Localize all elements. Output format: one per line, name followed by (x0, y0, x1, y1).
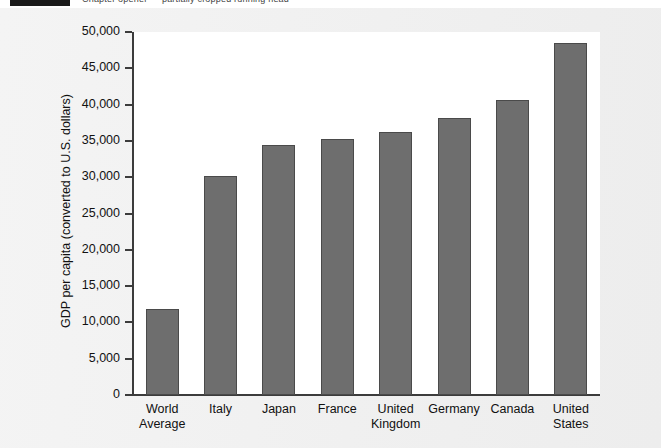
x-axis-category-label: United States (542, 402, 600, 432)
y-axis-tick-mark (125, 249, 132, 251)
bar (379, 132, 412, 395)
y-axis-tick-label: 10,000 (82, 314, 120, 328)
x-axis-category-label: Japan (250, 402, 308, 417)
x-axis-category-label: France (308, 402, 366, 417)
x-axis-category-label: Germany (425, 402, 483, 417)
y-axis-tick-mark (125, 358, 132, 360)
y-axis-tick-mark (125, 394, 132, 396)
bar (554, 43, 587, 395)
header-tab-block (10, 0, 70, 6)
y-axis-tick-mark (125, 176, 132, 178)
y-axis-tick-mark (125, 104, 132, 106)
y-axis-tick-label: 5,000 (89, 351, 120, 365)
y-axis-tick-label: 40,000 (82, 97, 120, 111)
x-axis-category-label: World Average (133, 402, 191, 432)
y-axis-tick-mark (125, 285, 132, 287)
y-axis-tick-label: 50,000 (82, 24, 120, 38)
plot-area (133, 32, 600, 395)
header-title: Chapter opener — partially cropped runni… (82, 0, 289, 4)
bar (146, 309, 179, 395)
y-axis-line (132, 32, 134, 396)
bar (438, 118, 471, 395)
y-axis-tick-mark (125, 67, 132, 69)
y-axis-tick-label: 15,000 (82, 278, 120, 292)
y-axis-tick-label: 30,000 (82, 169, 120, 183)
x-axis-category-label: United Kingdom (367, 402, 425, 432)
y-axis-title: GDP per capita (converted to U.S. dollar… (59, 61, 73, 361)
bar (262, 145, 295, 395)
x-axis-line (132, 394, 600, 396)
x-axis-category-label: Italy (191, 402, 249, 417)
y-axis-tick-label: 35,000 (82, 133, 120, 147)
y-axis-tick-label: 25,000 (82, 206, 120, 220)
y-axis-tick-mark (125, 140, 132, 142)
chart-figure: GDP per capita (converted to U.S. dollar… (0, 8, 661, 448)
y-axis-tick-label: 45,000 (82, 60, 120, 74)
bar (496, 100, 529, 395)
bar (204, 176, 237, 395)
y-axis-tick-label: 0 (113, 387, 120, 401)
y-axis-tick-mark (125, 31, 132, 33)
y-axis-tick-mark (125, 321, 132, 323)
y-axis-tick-label: 20,000 (82, 242, 120, 256)
bar (321, 139, 354, 395)
x-axis-category-label: Canada (483, 402, 541, 417)
y-axis-tick-mark (125, 213, 132, 215)
